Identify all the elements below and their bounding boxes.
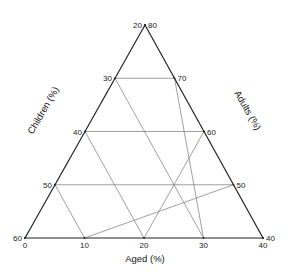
grid-line-diagonal bbox=[55, 185, 85, 238]
right-tick-label: 80 bbox=[148, 21, 157, 30]
tick-labels: 20304050608070605040010203040 bbox=[13, 21, 275, 250]
left-axis-title: Children (%) bbox=[25, 85, 61, 136]
bottom-axis-title: Aged (%) bbox=[125, 253, 165, 264]
bottom-tick-label: 20 bbox=[140, 241, 149, 250]
tick-mark bbox=[114, 77, 116, 79]
tick-mark bbox=[143, 237, 145, 239]
tick-mark bbox=[233, 184, 235, 186]
tick-mark bbox=[203, 131, 205, 133]
bottom-tick-label: 30 bbox=[199, 241, 208, 250]
ternary-diagram: 20304050608070605040010203040 Children (… bbox=[0, 0, 293, 278]
grid-line-diagonal bbox=[175, 78, 204, 238]
bottom-tick-label: 0 bbox=[23, 241, 28, 250]
tick-mark bbox=[54, 184, 56, 186]
tick-mark bbox=[84, 237, 86, 239]
tick-mark bbox=[24, 237, 26, 239]
right-tick-label: 50 bbox=[237, 181, 246, 190]
left-tick-label: 30 bbox=[103, 74, 112, 83]
grid-line-diagonal bbox=[115, 78, 204, 238]
bottom-tick-label: 10 bbox=[80, 241, 89, 250]
right-tick-label: 70 bbox=[178, 74, 187, 83]
bottom-tick-label: 40 bbox=[259, 241, 268, 250]
right-axis-title: Adults (%) bbox=[232, 89, 263, 132]
left-tick-label: 50 bbox=[43, 181, 52, 190]
tick-mark bbox=[262, 237, 264, 239]
left-tick-label: 40 bbox=[73, 128, 82, 137]
left-tick-label: 60 bbox=[13, 234, 22, 243]
tick-mark bbox=[144, 24, 146, 26]
left-tick-label: 20 bbox=[133, 21, 142, 30]
tick-mark bbox=[174, 77, 176, 79]
grid-lines bbox=[55, 78, 234, 238]
tick-mark bbox=[84, 131, 86, 133]
tick-mark bbox=[203, 237, 205, 239]
right-tick-label: 60 bbox=[207, 128, 216, 137]
